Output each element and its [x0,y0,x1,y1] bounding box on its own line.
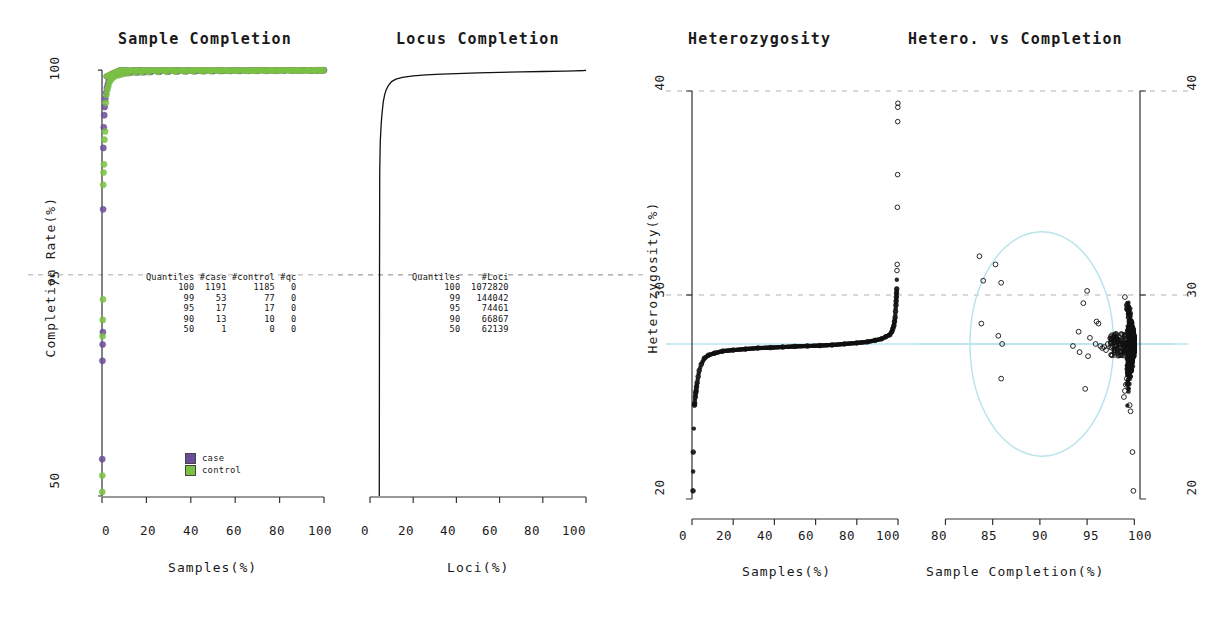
x-tick-het-100: 100 [876,528,900,543]
x-tick-0: 0 [102,523,110,538]
legend-swatch-control [185,465,196,476]
x-tick-het-0: 0 [679,528,687,543]
quantiles-table-locus: Quantiles #Loci 100 1072820 99 144042 95… [412,272,509,334]
x-tick-loci-40: 40 [440,523,456,538]
y-tick-hvc-30: 30 [1183,282,1199,297]
y-tick-het-40: 40 [651,75,667,90]
x-tick-het-80: 80 [839,528,855,543]
legend-swatch-case [185,453,196,464]
x-tick-40: 40 [183,523,199,538]
y-axis-label-heterozygosity: Heterozygosity(%) [645,188,660,368]
x-tick-het-60: 60 [798,528,814,543]
x-tick-loci-80: 80 [524,523,540,538]
x-axis-label-loci: Loci(%) [447,560,510,575]
x-tick-60: 60 [226,523,242,538]
legend-sample-completion: case control [185,452,241,476]
quantiles-table-sample: Quantiles #case #control #qc 100 1191 11… [146,272,296,334]
x-tick-loci-60: 60 [482,523,498,538]
x-tick-hvc-90: 90 [1032,528,1048,543]
legend-item-control: control [185,464,241,476]
plot-area-heterozygosity [676,85,918,505]
x-tick-80: 80 [269,523,285,538]
x-tick-hvc-85: 85 [981,528,997,543]
x-tick-loci-20: 20 [398,523,414,538]
x-axis-label-samples: Samples(%) [168,560,257,575]
plot-area-hetero-vs-completion [928,85,1173,505]
panel-title-heterozygosity: Heterozygosity [688,30,831,48]
x-tick-hvc-80: 80 [931,528,947,543]
x-tick-loci-0: 0 [361,523,369,538]
x-tick-100: 100 [308,523,332,538]
y-tick-100: 100 [42,61,66,76]
y-tick-hvc-20: 20 [1183,480,1199,495]
x-axis-label-sample-completion: Sample Completion(%) [926,564,1105,579]
x-tick-het-20: 20 [716,528,732,543]
panel-title-locus-completion: Locus Completion [396,30,560,48]
panel-title-sample-completion: Sample Completion [118,30,292,48]
y-tick-het-30: 30 [651,282,667,297]
legend-label-case: case [202,453,224,463]
legend-item-case: case [185,452,241,464]
x-tick-20: 20 [140,523,156,538]
y-tick-hvc-40: 40 [1183,75,1199,90]
x-tick-loci-100: 100 [562,523,586,538]
legend-label-control: control [202,465,241,475]
x-tick-hvc-95: 95 [1083,528,1099,543]
x-axis-label-het-samples: Samples(%) [742,564,831,579]
panel-title-hetero-vs-completion: Hetero. vs Completion [908,30,1123,48]
x-tick-hvc-100: 100 [1128,528,1152,543]
x-tick-het-40: 40 [757,528,773,543]
y-tick-75: 75 [46,271,62,286]
y-tick-het-20: 20 [651,480,667,495]
y-tick-50: 50 [46,473,62,488]
